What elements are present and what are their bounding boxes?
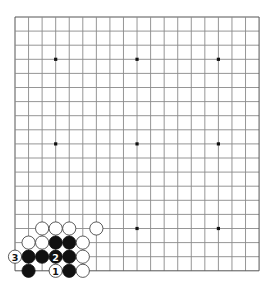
black-stone[interactable] (63, 236, 76, 249)
white-stone-move-3[interactable]: 3 (8, 250, 21, 263)
black-stone-icon (49, 236, 62, 249)
black-stone[interactable] (49, 236, 62, 249)
white-stone-icon (49, 222, 62, 235)
white-stone[interactable] (76, 264, 89, 277)
move-number-label: 3 (12, 252, 19, 263)
white-stone-icon (90, 222, 103, 235)
white-stone[interactable] (36, 236, 49, 249)
move-number-label: 1 (52, 266, 59, 277)
star-point-icon (135, 227, 138, 230)
white-stone-icon (76, 236, 89, 249)
white-stone-icon (76, 250, 89, 263)
white-stone[interactable] (76, 250, 89, 263)
go-board[interactable]: 321 (0, 0, 275, 291)
white-stone[interactable] (22, 236, 35, 249)
black-stone[interactable] (36, 250, 49, 263)
star-point-icon (217, 142, 220, 145)
white-stone[interactable] (36, 222, 49, 235)
white-stone-icon (63, 222, 76, 235)
black-stone-icon (22, 250, 35, 263)
black-stone[interactable] (63, 250, 76, 263)
white-stone-icon (22, 236, 35, 249)
black-stone[interactable] (22, 250, 35, 263)
white-stone[interactable] (49, 222, 62, 235)
black-stone-icon (36, 250, 49, 263)
white-stone-icon (76, 264, 89, 277)
black-stone-icon (63, 250, 76, 263)
star-point-icon (54, 58, 57, 61)
star-point-icon (217, 58, 220, 61)
black-stone-icon (63, 236, 76, 249)
white-stone[interactable] (63, 222, 76, 235)
white-stone-icon (36, 222, 49, 235)
white-stone-icon (36, 236, 49, 249)
white-stone[interactable] (76, 236, 89, 249)
white-stone-move-1[interactable]: 1 (49, 264, 62, 277)
move-number-label: 2 (52, 252, 59, 263)
white-stone[interactable] (90, 222, 103, 235)
black-stone-move-2[interactable]: 2 (49, 250, 62, 263)
black-stone[interactable] (63, 264, 76, 277)
black-stone-icon (63, 264, 76, 277)
star-point-icon (54, 142, 57, 145)
star-point-icon (135, 142, 138, 145)
black-stone[interactable] (22, 264, 35, 277)
star-point-icon (217, 227, 220, 230)
black-stone-icon (22, 264, 35, 277)
star-point-icon (135, 58, 138, 61)
